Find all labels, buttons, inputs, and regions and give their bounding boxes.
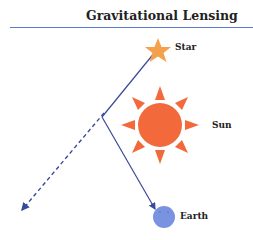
star-icon: [145, 38, 171, 62]
sun-icon: [121, 86, 199, 164]
earth-label: Earth: [180, 211, 208, 221]
earth-icon: [153, 206, 175, 228]
apparent-ray: [22, 113, 104, 210]
sun-label: Sun: [212, 120, 232, 130]
star-label: Star: [175, 42, 196, 52]
